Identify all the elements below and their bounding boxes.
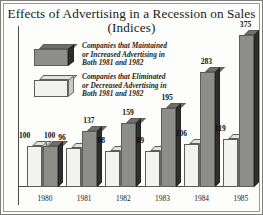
bar-front-face bbox=[145, 151, 160, 187]
x-tick-label-1985: 1985 bbox=[220, 194, 260, 203]
bar-front-face bbox=[223, 139, 238, 187]
bar-front-face bbox=[161, 108, 176, 187]
page-title: Effects of Advertising in a Recession on… bbox=[4, 7, 259, 36]
x-tick-label-1984: 1984 bbox=[181, 194, 223, 203]
bar-side-face bbox=[176, 103, 181, 187]
bar-front-face bbox=[43, 146, 58, 187]
value-label-1983-light: 89 bbox=[137, 136, 145, 145]
legend-item-maintained: Companies that Maintained or Increased A… bbox=[34, 42, 204, 73]
bar-front-face bbox=[239, 35, 254, 187]
bar-front-face bbox=[184, 144, 199, 187]
bar-side-face bbox=[254, 30, 259, 187]
bar-front-face bbox=[105, 151, 120, 187]
chart-subtitle: (Indices) bbox=[4, 21, 259, 35]
value-label-1982-dark: 159 bbox=[122, 108, 133, 117]
bar-front-face bbox=[66, 148, 81, 187]
legend-label-eliminated: Companies that Eliminated or Decreased A… bbox=[82, 73, 202, 99]
value-label-1981-light: 96 bbox=[58, 133, 66, 142]
chart-title: Effects of Advertising in a Recession on… bbox=[4, 7, 259, 21]
value-label-1984-light: 106 bbox=[176, 129, 187, 138]
value-label-1985-light: 119 bbox=[215, 124, 226, 133]
chart-frame: 1001001980961371981881591982891951983106… bbox=[0, 0, 263, 215]
y-axis-line bbox=[18, 26, 19, 205]
bar-1982-dark[interactable] bbox=[121, 118, 141, 187]
chart-legend: Companies that Maintained or Increased A… bbox=[34, 42, 204, 104]
bar-1980-dark[interactable] bbox=[43, 141, 63, 187]
legend-label-line3: Both 1981 and 1982 bbox=[82, 59, 202, 68]
bar-1985-dark[interactable] bbox=[239, 30, 259, 187]
bar-front-face bbox=[82, 131, 97, 187]
legend-item-eliminated: Companies that Eliminated or Decreased A… bbox=[34, 73, 204, 104]
value-label-1980-light: 100 bbox=[19, 131, 30, 140]
value-label-1980-dark: 100 bbox=[44, 131, 55, 140]
bar-front-face bbox=[121, 123, 136, 187]
x-tick-label-1981: 1981 bbox=[63, 194, 105, 203]
x-tick-label-1982: 1982 bbox=[102, 194, 144, 203]
bar-1983-dark[interactable] bbox=[161, 103, 181, 187]
light-cube-swatch bbox=[34, 75, 74, 97]
chart-canvas: 1001001980961371981881591982891951983106… bbox=[3, 3, 260, 212]
bar-side-face bbox=[136, 118, 141, 187]
value-label-1981-dark: 137 bbox=[83, 116, 94, 125]
x-tick-label-1983: 1983 bbox=[142, 194, 184, 203]
bar-group-1985: 1193751985 bbox=[223, 13, 260, 187]
legend-label-maintained: Companies that Maintained or Increased A… bbox=[82, 42, 202, 68]
dark-cube-swatch bbox=[34, 44, 74, 66]
bar-side-face bbox=[58, 141, 63, 187]
x-tick-label-1980: 1980 bbox=[24, 194, 66, 203]
legend-label-line3: Both 1981 and 1982 bbox=[82, 90, 202, 99]
bar-front-face bbox=[27, 146, 42, 187]
value-label-1982-light: 88 bbox=[97, 136, 105, 145]
